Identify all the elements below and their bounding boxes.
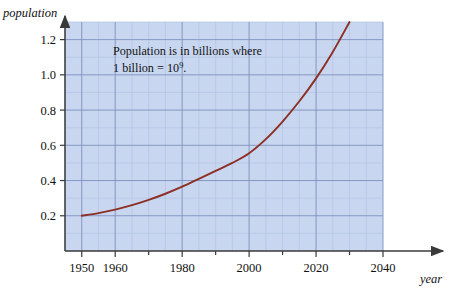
x-axis-tick-labels: 195019601980200020202040 — [69, 261, 395, 275]
x-axis-ticks — [82, 251, 383, 257]
x-tick-label: 2000 — [237, 261, 262, 275]
y-tick-label: 0.8 — [40, 104, 56, 118]
population-growth-chart: 0.20.40.60.81.01.2 195019601980200020202… — [0, 0, 460, 292]
y-tick-label: 0.2 — [40, 209, 56, 223]
y-axis-title: population — [2, 6, 57, 20]
x-tick-label: 1960 — [103, 261, 128, 275]
chart-svg: 0.20.40.60.81.01.2 195019601980200020202… — [0, 0, 460, 292]
annotation-line-1: Population is in billions where — [113, 44, 262, 58]
y-tick-label: 0.6 — [40, 139, 56, 153]
x-axis-title: year — [418, 272, 442, 286]
y-axis-tick-labels: 0.20.40.60.81.01.2 — [40, 33, 56, 223]
y-tick-label: 1.0 — [40, 68, 56, 82]
x-tick-label: 1980 — [170, 261, 195, 275]
x-tick-label: 1950 — [69, 261, 94, 275]
annotation-line-2-suffix: . — [183, 61, 186, 75]
x-tick-label: 2020 — [304, 261, 329, 275]
x-tick-label: 2040 — [371, 261, 396, 275]
y-tick-label: 1.2 — [40, 33, 56, 47]
annotation-line-2-prefix: 1 billion = 10 — [113, 61, 179, 75]
annotation-line-2: 1 billion = 109. — [113, 61, 186, 76]
y-tick-label: 0.4 — [40, 174, 56, 188]
